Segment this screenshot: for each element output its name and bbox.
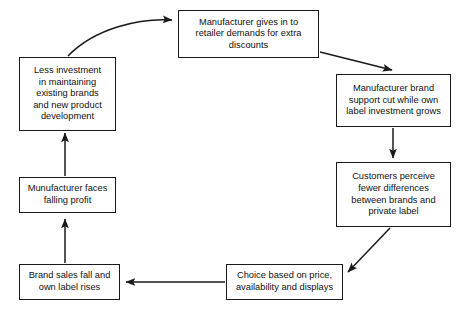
node-manufacturer-faces-falling-profit: Munufacturer faces falling profit <box>19 177 116 213</box>
edge-giving-in-to-brand-support <box>320 52 392 70</box>
node-label: Brand sales fall and own label rises <box>26 270 114 293</box>
edge-customers-to-choice <box>348 228 390 272</box>
node-customers-perceive-fewer-differences: Customers perceive fewer differences bet… <box>336 162 451 227</box>
node-label: Choice based on price, availability and … <box>233 270 336 293</box>
node-choice-based-on-price: Choice based on price, availability and … <box>226 264 343 300</box>
node-label: Manufacturer brand support cut while own… <box>343 83 444 118</box>
node-label: Less investment in maintaining existing … <box>30 65 105 123</box>
node-brand-sales-fall: Brand sales fall and own label rises <box>19 264 120 300</box>
node-manufacturer-gives-in: Manufacturer gives in to retailer demand… <box>178 10 319 58</box>
node-label: Munufacturer faces falling profit <box>25 183 111 206</box>
node-manufacturer-brand-support-cut: Manufacturer brand support cut while own… <box>336 74 451 127</box>
node-label: Customers perceive fewer differences bet… <box>348 171 438 217</box>
node-less-investment: Less investment in maintaining existing … <box>19 57 116 131</box>
edge-less-investment-to-giving-in <box>68 20 172 56</box>
node-label: Manufacturer gives in to retailer demand… <box>193 17 305 52</box>
flowchart-diagram: Manufacturer gives in to retailer demand… <box>0 0 467 318</box>
